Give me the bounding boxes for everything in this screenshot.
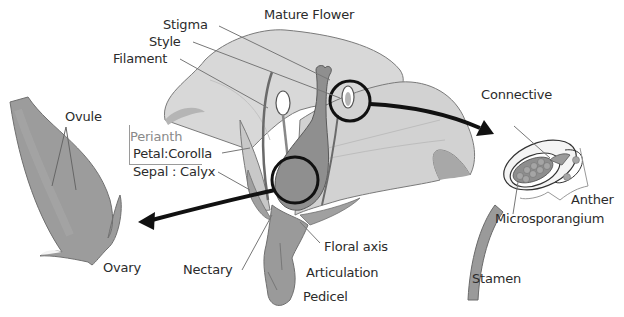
label-stamen: Stamen [472,272,521,285]
label-sepal-calyx: Sepal : Calyx [133,165,215,178]
label-floral-axis: Floral axis [324,240,388,253]
label-petal-corolla: Petal:Corolla [133,147,212,160]
label-perianth: Perianth [130,130,182,143]
label-articulation: Articulation [306,266,378,279]
flower-diagram: Mature Flower Stigma Style Filament Ovul… [0,0,624,317]
label-nectary: Nectary [183,263,233,276]
label-ovary: Ovary [103,261,141,274]
label-microsporangium: Microsporangium [495,212,604,225]
label-connective: Connective [481,88,552,101]
label-style: Style [149,35,181,48]
label-pedicel: Pedicel [303,290,348,303]
label-stigma: Stigma [163,18,208,31]
label-ovule: Ovule [65,110,102,123]
arrow-left-icon [138,190,275,230]
diagram-title: Mature Flower [264,8,354,21]
label-anther: Anther [571,193,614,206]
label-filament: Filament [113,52,167,65]
